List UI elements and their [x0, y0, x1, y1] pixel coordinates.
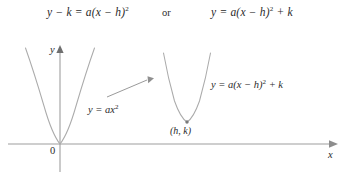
figure-container: y − k = a(x − h)2 or y = a(x − h)2 + k y…	[0, 0, 343, 176]
shifted-parabola-label-prefix: y = a(x − h)	[211, 79, 263, 90]
vertex-point-marker	[185, 120, 188, 123]
x-axis-arrowhead	[329, 140, 338, 148]
shift-arrow-head	[148, 76, 155, 83]
shifted-parabola-label: y = a(x − h)2 + k	[211, 80, 283, 91]
y-axis-arrowhead	[56, 45, 63, 53]
vertex-coordinate-label: (h, k)	[170, 126, 191, 136]
base-parabola-label: y = ax2	[88, 105, 118, 116]
shifted-parabola-curve	[164, 53, 211, 122]
base-parabola-label-exponent: 2	[115, 103, 119, 111]
x-axis-label: x	[328, 150, 333, 161]
shifted-parabola-label-suffix: + k	[266, 79, 283, 90]
base-parabola-label-text: y = ax	[88, 104, 115, 115]
shift-arrow-line	[107, 80, 147, 97]
origin-label: 0	[50, 146, 55, 157]
y-axis-label: y	[50, 45, 55, 56]
